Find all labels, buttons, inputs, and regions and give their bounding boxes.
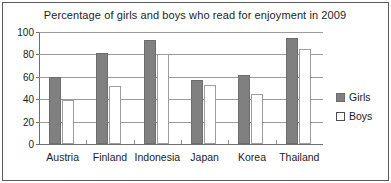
- x-axis-tick-label: Finland: [93, 151, 127, 163]
- chart-legend: Girls Boys: [336, 91, 386, 129]
- x-axis-tick-mark: [181, 140, 182, 144]
- bar-boys: [62, 100, 74, 144]
- outlined-white-square-icon: [336, 112, 345, 121]
- legend-item-girls: Girls: [336, 91, 386, 103]
- bar-group: Indonesia: [134, 32, 181, 144]
- bar-group: Japan: [181, 32, 228, 144]
- x-axis-tick-label: Austria: [46, 151, 79, 163]
- bar-group: Korea: [228, 32, 275, 144]
- x-axis-tick-mark: [134, 140, 135, 144]
- bar-group: Finland: [86, 32, 133, 144]
- plot-inner: 020406080100 AustriaFinlandIndonesiaJapa…: [39, 32, 323, 144]
- bar-girls: [286, 38, 298, 144]
- legend-item-label: Boys: [349, 110, 372, 122]
- chart-title: Percentage of girls and boys who read fo…: [25, 9, 365, 21]
- filled-gray-square-icon: [336, 93, 345, 102]
- y-axis-tick-label: 80: [23, 49, 34, 60]
- x-axis-tick-mark: [86, 140, 87, 144]
- bar-girls: [49, 77, 61, 144]
- y-axis-tick-label: 40: [23, 94, 34, 105]
- plot-area: 020406080100 AustriaFinlandIndonesiaJapa…: [39, 32, 323, 144]
- bar-boys: [157, 54, 169, 144]
- bar-girls: [144, 40, 156, 144]
- x-axis-tick-label: Japan: [190, 151, 219, 163]
- x-axis-tick-mark: [228, 140, 229, 144]
- y-tick-mark: [36, 144, 39, 145]
- bar-girls: [96, 53, 108, 144]
- chart-container: Percentage of girls and boys who read fo…: [2, 2, 389, 181]
- x-axis-tick-label: Thailand: [279, 151, 319, 163]
- legend-item-label: Girls: [349, 91, 371, 103]
- x-axis-tick-label: Korea: [238, 151, 266, 163]
- bar-boys: [109, 86, 121, 144]
- y-axis-tick-label: 100: [17, 27, 34, 38]
- bar-group: Thailand: [276, 32, 323, 144]
- bar-boys: [251, 94, 263, 144]
- y-axis-tick-label: 60: [23, 71, 34, 82]
- legend-item-boys: Boys: [336, 110, 386, 122]
- x-axis-tick-mark: [276, 140, 277, 144]
- y-axis-tick-label: 20: [23, 116, 34, 127]
- bar-boys: [204, 85, 216, 144]
- bar-girls: [238, 75, 250, 144]
- bar-group: Austria: [39, 32, 86, 144]
- x-axis-tick-label: Indonesia: [135, 151, 181, 163]
- bar-girls: [191, 80, 203, 144]
- gridline: [39, 144, 323, 145]
- y-axis-tick-label: 0: [28, 139, 34, 150]
- bar-boys: [299, 49, 311, 144]
